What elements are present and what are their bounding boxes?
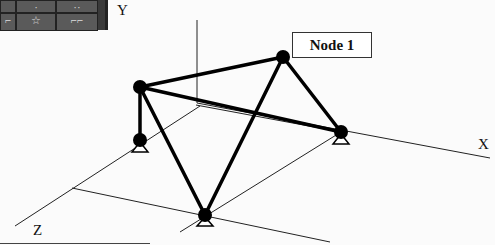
member xyxy=(140,87,205,215)
bottom-rule xyxy=(0,243,150,244)
node-1-callout: Node 1 xyxy=(292,32,372,58)
member xyxy=(140,57,283,87)
node xyxy=(133,80,147,94)
node xyxy=(133,133,147,147)
truss-members xyxy=(140,57,341,215)
y-axis-label: Y xyxy=(117,2,128,19)
node-1 xyxy=(276,50,290,64)
z-axis xyxy=(15,106,200,226)
axis-lines xyxy=(15,20,490,242)
node xyxy=(334,125,348,139)
truss-diagram xyxy=(0,0,495,245)
z-axis-label: Z xyxy=(33,222,42,239)
member xyxy=(205,57,283,215)
x-axis-label: X xyxy=(478,136,489,153)
node xyxy=(198,208,212,222)
